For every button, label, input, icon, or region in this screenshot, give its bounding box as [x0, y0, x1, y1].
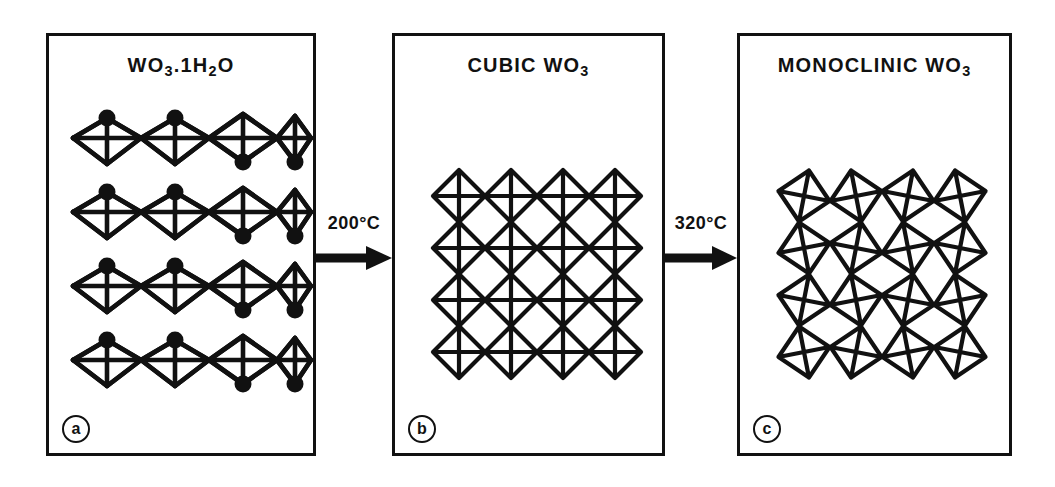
panel-a-structure [49, 102, 313, 402]
panel-c: MONOCLINIC WO3 [737, 33, 1012, 456]
panel-a-title-main: WO [128, 54, 165, 76]
panel-b-title-sub1: 3 [580, 63, 589, 79]
panel-c-title: MONOCLINIC WO3 [740, 54, 1009, 79]
panel-b-tag: b [408, 415, 436, 443]
panel-b: CUBIC WO3 [392, 33, 665, 456]
panel-b-structure [395, 154, 662, 384]
panel-c-title-main: MONOCLINIC WO [778, 54, 962, 76]
panel-a: WO3.1H2O [46, 33, 316, 456]
reaction-scheme-figure: WO3.1H2O [0, 0, 1055, 487]
panel-a-title-sub1: 3 [164, 63, 173, 79]
panel-c-title-sub1: 3 [962, 63, 971, 79]
panel-a-title-end: O [218, 54, 235, 76]
arrow-a-to-b-label: 200°C [316, 213, 392, 234]
panel-a-title: WO3.1H2O [49, 54, 313, 79]
arrow-b-to-c-label: 320°C [665, 213, 737, 234]
panel-c-tag: c [753, 415, 781, 443]
panel-c-structure [740, 154, 1009, 384]
panel-a-title-sub2: 2 [208, 63, 217, 79]
panel-a-title-mid: .1H [174, 54, 209, 76]
panel-b-title-main: CUBIC WO [467, 54, 580, 76]
arrow-a-to-b: 200°C [316, 213, 392, 283]
panel-a-tag: a [62, 415, 90, 443]
panel-b-title: CUBIC WO3 [395, 54, 662, 79]
arrow-b-to-c: 320°C [665, 213, 737, 283]
